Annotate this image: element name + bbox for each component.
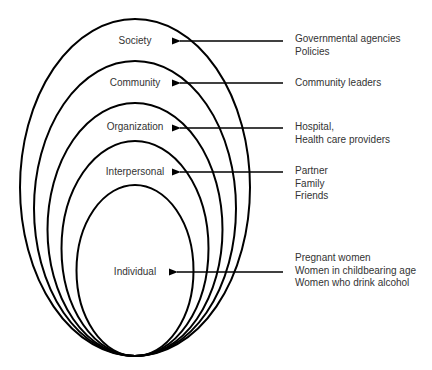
targets-society: Governmental agencies Policies [295, 33, 401, 58]
level-label-community: Community [110, 77, 161, 88]
ellipse-society [20, 19, 250, 356]
target-item: Women in childbearing age [295, 265, 416, 278]
targets-organization: Hospital, Health care providers [295, 121, 390, 146]
targets-individual: Pregnant women Women in childbearing age… [295, 252, 416, 290]
targets-interpersonal: Partner Family Friends [295, 165, 328, 203]
target-item: Hospital, [295, 121, 390, 134]
level-label-society: Society [119, 35, 152, 46]
target-item: Partner [295, 165, 328, 178]
target-item: Pregnant women [295, 252, 416, 265]
ellipse-community [34, 61, 236, 356]
target-item: Women who drink alcohol [295, 277, 416, 290]
targets-community: Community leaders [295, 77, 381, 90]
target-item: Governmental agencies [295, 33, 401, 46]
level-label-organization: Organization [107, 121, 164, 132]
target-item: Family [295, 178, 328, 191]
target-item: Friends [295, 190, 328, 203]
target-item: Policies [295, 46, 401, 59]
level-label-individual: Individual [114, 266, 156, 277]
target-item: Community leaders [295, 77, 381, 90]
target-item: Health care providers [295, 134, 390, 147]
level-label-interpersonal: Interpersonal [106, 166, 164, 177]
